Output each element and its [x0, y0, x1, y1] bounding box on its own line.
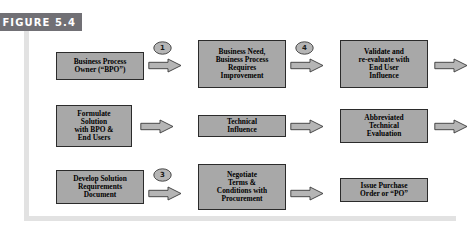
flow-arrow-icon: [148, 58, 182, 73]
flow-arrow-icon: [148, 186, 182, 201]
flow-row: Formulate Solution with BPO & End UsersT…: [0, 97, 475, 159]
process-box-validate-re-evaluate: Validate and re-evaluate with End User I…: [340, 40, 428, 88]
flow-arrow-icon: [290, 58, 324, 73]
process-box-label: Develop Solution Requirements Document: [73, 175, 127, 199]
process-box-develop-solution-requirements: Develop Solution Requirements Document: [56, 170, 144, 204]
process-box-label: Business Need, Business Process Requires…: [216, 48, 269, 79]
flow-arrow-icon: [140, 119, 174, 134]
step-marker-label: 4: [295, 41, 314, 55]
process-box-label: Issue Purchase Order or “PO”: [360, 182, 408, 198]
process-box-abbreviated-technical-evaluation: Abbreviated Technical Evaluation: [340, 109, 428, 143]
process-box-label: Negotiate Terms & Conditions with Procur…: [217, 171, 267, 202]
process-box-label: Technical Influence: [227, 118, 257, 134]
step-marker: 3: [153, 168, 172, 182]
process-box-label: Business Process Owner (“BPO”): [74, 58, 127, 74]
figure-container: FIGURE 5.4 Business Process Owner (“BPO”…: [0, 0, 475, 245]
figure-banner-label: FIGURE 5.4: [2, 17, 76, 28]
step-marker: 1: [153, 41, 172, 55]
step-marker-label: 3: [153, 168, 172, 182]
step-marker: 4: [295, 41, 314, 55]
process-box-issue-purchase-order: Issue Purchase Order or “PO”: [340, 178, 428, 202]
process-box-business-need: Business Need, Business Process Requires…: [198, 40, 286, 88]
process-box-technical-influence: Technical Influence: [198, 115, 286, 137]
process-box-label: Abbreviated Technical Evaluation: [364, 114, 403, 138]
flow-arrow-icon: [434, 58, 468, 73]
process-box-formulate-solution: Formulate Solution with BPO & End Users: [56, 105, 132, 147]
flow-arrow-icon: [290, 186, 324, 201]
flow-row: Business Process Owner (“BPO”)Business N…: [0, 36, 475, 98]
flow-arrow-icon: [434, 119, 468, 134]
process-box-label: Formulate Solution with BPO & End Users: [74, 110, 113, 141]
flow-arrow-icon: [290, 119, 324, 134]
step-marker-label: 1: [153, 41, 172, 55]
process-box-business-process-owner: Business Process Owner (“BPO”): [56, 52, 144, 80]
process-box-label: Validate and re-evaluate with End User I…: [359, 48, 410, 79]
flow-row: Develop Solution Requirements DocumentNe…: [0, 158, 475, 220]
figure-banner: FIGURE 5.4: [0, 13, 82, 31]
process-box-negotiate-terms: Negotiate Terms & Conditions with Procur…: [198, 164, 286, 210]
